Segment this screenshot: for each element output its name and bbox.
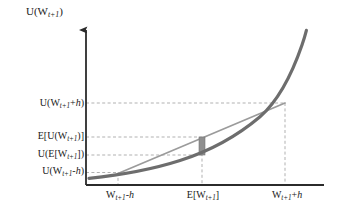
ytick1-subscript: t+1 [67, 135, 77, 143]
ytick3-part0: U(W [42, 165, 62, 176]
ytick0-subscript: t+1 [60, 102, 70, 110]
y-axis-title: U(Wt+1) [26, 6, 63, 19]
y-axis-title-subscript: t+1 [48, 10, 59, 19]
y-tick-label-u-w-plus-h: U(Wt+1+h) [40, 98, 84, 110]
ytick0-part4: ) [81, 97, 84, 108]
horizontal-guide-lines [86, 103, 285, 173]
ytick2-subscript: t+1 [67, 153, 77, 161]
x-tick-label-w-minus-h: Wt+1-h [106, 190, 134, 202]
xtick2-part3: h [297, 189, 302, 200]
xtick2-subscript: t+1 [281, 194, 291, 202]
xtick0-part3: h [129, 189, 134, 200]
xtick1-part0: E[W [187, 189, 206, 200]
ytick2-part2: ]) [77, 148, 84, 159]
xtick1-subscript: t+1 [206, 194, 216, 202]
ytick0-part0: U(W [40, 97, 60, 108]
y-axis-title-tail: ) [59, 5, 63, 17]
x-tick-label-e-w: E[Wt+1] [187, 190, 219, 202]
ytick3-subscript: t+1 [62, 170, 72, 178]
ytick1-part0: E[U(W [38, 130, 67, 141]
y-axis-title-base: U(W [26, 5, 48, 17]
xtick0-subscript: t+1 [115, 194, 125, 202]
utility-curve [89, 30, 306, 178]
ytick3-part4: ) [81, 165, 84, 176]
plot-canvas [0, 0, 343, 221]
utility-function-figure: U(Wt+1) U(Wt+1+h) E[U(Wt+1)] U(E[Wt+1]) … [0, 0, 343, 221]
xtick1-part2: ] [216, 189, 219, 200]
y-tick-label-u-e-w: U(E[Wt+1]) [38, 149, 84, 161]
ytick1-part2: )] [77, 130, 84, 141]
x-tick-label-w-plus-h: Wt+1+h [272, 190, 302, 202]
y-tick-label-e-u-w: E[U(Wt+1)] [38, 131, 84, 143]
y-tick-label-u-w-minus-h: U(Wt+1-h) [42, 166, 84, 178]
ytick2-part0: U(E[W [38, 148, 67, 159]
